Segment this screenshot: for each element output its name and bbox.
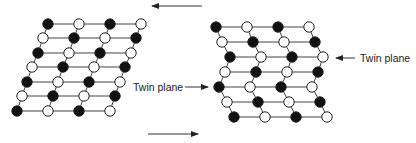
- open-atom: [115, 77, 125, 87]
- open-atom: [318, 52, 328, 62]
- filled-atom: [105, 19, 115, 29]
- open-atom: [217, 37, 227, 47]
- filled-atom: [22, 77, 32, 87]
- open-atom: [126, 48, 136, 58]
- filled-atom: [12, 106, 22, 116]
- open-atom: [27, 62, 37, 72]
- open-atom: [43, 106, 53, 116]
- filled-atom: [229, 112, 239, 122]
- filled-atom: [95, 48, 105, 58]
- twinning-diagram: [0, 0, 416, 143]
- open-atom: [245, 82, 255, 92]
- filled-atom: [291, 112, 301, 122]
- open-atom: [100, 33, 110, 43]
- original-lattice: [12, 19, 146, 116]
- filled-atom: [225, 52, 235, 62]
- open-atom: [282, 67, 292, 77]
- filled-atom: [310, 37, 320, 47]
- open-atom: [220, 67, 230, 77]
- filled-atom: [84, 77, 94, 87]
- open-atom: [242, 22, 252, 32]
- filled-atom: [58, 62, 68, 72]
- filled-atom: [248, 37, 258, 47]
- filled-atom: [273, 22, 283, 32]
- filled-atom: [120, 62, 130, 72]
- open-atom: [136, 19, 146, 29]
- filled-atom: [74, 106, 84, 116]
- open-atom: [64, 48, 74, 58]
- filled-atom: [287, 52, 297, 62]
- open-atom: [74, 19, 84, 29]
- open-atom: [307, 82, 317, 92]
- filled-atom: [211, 22, 221, 32]
- filled-atom: [315, 97, 325, 107]
- twin-plane-label-right: Twin plane: [360, 52, 410, 64]
- filled-atom: [110, 91, 120, 101]
- open-atom: [260, 112, 270, 122]
- filled-atom: [131, 33, 141, 43]
- filled-atom: [251, 67, 261, 77]
- filled-atom: [48, 91, 58, 101]
- filled-atom: [276, 82, 286, 92]
- open-atom: [284, 97, 294, 107]
- open-atom: [89, 62, 99, 72]
- open-atom: [256, 52, 266, 62]
- open-atom: [105, 106, 115, 116]
- twin-plane-label-left: Twin plane: [133, 81, 183, 93]
- open-atom: [279, 37, 289, 47]
- filled-atom: [313, 67, 323, 77]
- open-atom: [304, 22, 314, 32]
- open-atom: [17, 91, 27, 101]
- open-atom: [38, 33, 48, 43]
- filled-atom: [214, 82, 224, 92]
- filled-atom: [43, 19, 53, 29]
- filled-atom: [69, 33, 79, 43]
- open-atom: [53, 77, 63, 87]
- twinned-lattice: [211, 22, 332, 122]
- open-atom: [79, 91, 89, 101]
- open-atom: [322, 112, 332, 122]
- open-atom: [222, 97, 232, 107]
- filled-atom: [33, 48, 43, 58]
- filled-atom: [253, 97, 263, 107]
